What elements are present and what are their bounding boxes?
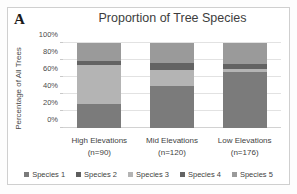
legend-item[interactable]: Species 4 <box>180 170 221 179</box>
bar-segment[interactable] <box>77 65 121 104</box>
x-tick-label: High Elevations(n=90) <box>72 135 128 158</box>
stacked-bar[interactable] <box>77 43 121 128</box>
figure-panel: A Proportion of Tree Species Percentage … <box>0 0 297 194</box>
x-tick-label-count: (n=90) <box>72 147 128 159</box>
bar-segment[interactable] <box>223 72 267 128</box>
bar-group: Mid Elevations(n=120) <box>136 43 209 128</box>
legend-swatch-icon <box>76 172 81 177</box>
legend-label: Species 1 <box>32 170 65 179</box>
stacked-bar[interactable] <box>223 43 267 128</box>
bar-group: Low Elevations(n=176) <box>208 43 281 128</box>
bar-segment[interactable] <box>150 70 194 85</box>
plot-area: 0%20%40%60%80%100% High Elevations(n=90)… <box>63 43 281 128</box>
legend-label: Species 3 <box>136 170 169 179</box>
legend-swatch-icon <box>232 172 237 177</box>
legend-item[interactable]: Species 5 <box>232 170 273 179</box>
y-axis-title: Percentage of All Trees <box>14 42 23 136</box>
bar-segment[interactable] <box>150 43 194 63</box>
x-tick-label-count: (n=120) <box>146 147 198 159</box>
chart-legend: Species 1Species 2Species 3Species 4Spec… <box>0 170 297 179</box>
bar-group: High Elevations(n=90) <box>63 43 136 128</box>
bar-segment[interactable] <box>223 64 267 68</box>
y-tick-label: 80% <box>43 47 58 56</box>
legend-swatch-icon <box>180 172 185 177</box>
legend-label: Species 5 <box>240 170 273 179</box>
x-tick-label-name: Low Elevations <box>218 135 272 147</box>
chart-title: Proportion of Tree Species <box>60 12 285 26</box>
legend-item[interactable]: Species 3 <box>128 170 169 179</box>
legend-swatch-icon <box>24 172 29 177</box>
bar-segment[interactable] <box>223 69 267 72</box>
bar-segment[interactable] <box>223 43 267 64</box>
x-tick-label: Mid Elevations(n=120) <box>146 135 198 158</box>
bar-segment[interactable] <box>77 61 121 65</box>
x-tick-label-name: High Elevations <box>72 135 128 147</box>
y-tick-label: 40% <box>43 81 58 90</box>
x-tick-label-count: (n=176) <box>218 147 272 159</box>
bar-segment[interactable] <box>150 86 194 129</box>
bar-segment[interactable] <box>150 63 194 70</box>
bar-segment[interactable] <box>77 43 121 61</box>
y-tick-label: 0% <box>47 115 58 124</box>
stacked-bar[interactable] <box>150 43 194 128</box>
y-tick-label: 60% <box>43 64 58 73</box>
y-tick-label: 20% <box>43 98 58 107</box>
legend-swatch-icon <box>128 172 133 177</box>
legend-label: Species 2 <box>84 170 117 179</box>
bar-segment[interactable] <box>77 104 121 128</box>
x-tick-label-name: Mid Elevations <box>146 135 198 147</box>
panel-letter: A <box>14 12 25 27</box>
y-tick-label: 100% <box>39 30 58 39</box>
legend-label: Species 4 <box>188 170 221 179</box>
legend-item[interactable]: Species 1 <box>24 170 65 179</box>
legend-item[interactable]: Species 2 <box>76 170 117 179</box>
x-tick-label: Low Elevations(n=176) <box>218 135 272 158</box>
